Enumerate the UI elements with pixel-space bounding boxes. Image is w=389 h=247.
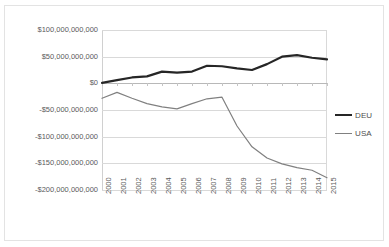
legend-label-deu: DEU <box>355 111 372 120</box>
chart-container: $100,000,000,000$50,000,000,000$0-$50,00… <box>4 5 384 241</box>
legend-line-icon-deu <box>335 114 352 116</box>
y-axis-tick-label: -$150,000,000,000 <box>6 159 98 167</box>
x-axis-tick-label: 2012 <box>285 177 293 194</box>
x-axis-tick-label: 2001 <box>120 177 128 194</box>
x-axis-tick-label: 2010 <box>255 177 263 194</box>
series-line-deu <box>102 55 327 83</box>
x-axis-tick-label: 2013 <box>300 177 308 194</box>
x-axis-tick-label: 2011 <box>270 178 278 194</box>
x-axis-tick-label: 2000 <box>105 177 113 194</box>
x-axis-tick-label: 2003 <box>150 177 158 194</box>
x-axis-tick-label: 2002 <box>135 177 143 194</box>
legend-item-deu[interactable]: DEU <box>335 106 383 124</box>
y-axis: $100,000,000,000$50,000,000,000$0-$50,00… <box>5 30 98 190</box>
x-axis: 2000200120022003200420052006200720082009… <box>102 192 327 238</box>
chart-legend: DEU USA <box>335 106 383 142</box>
x-axis-tick-label: 2005 <box>180 177 188 194</box>
series-line-usa <box>102 92 327 177</box>
x-axis-tick-label: 2008 <box>225 177 233 194</box>
x-axis-tick-label: 2006 <box>195 177 203 194</box>
x-axis-tick <box>327 83 328 86</box>
x-axis-tick-label: 2004 <box>165 177 173 194</box>
plot-area <box>102 30 327 190</box>
y-axis-tick-label: $0 <box>6 79 98 87</box>
y-axis-tick-label: -$50,000,000,000 <box>6 106 98 114</box>
y-axis-tick-label: $100,000,000,000 <box>6 26 98 34</box>
y-axis-tick-label: -$100,000,000,000 <box>6 133 98 141</box>
legend-item-usa[interactable]: USA <box>335 124 383 142</box>
series-layer <box>102 30 327 190</box>
legend-line-icon-usa <box>335 133 352 134</box>
y-axis-tick-label: $50,000,000,000 <box>6 53 98 61</box>
x-axis-tick-label: 2014 <box>315 177 323 194</box>
legend-label-usa: USA <box>355 129 372 138</box>
x-axis-tick-label: 2007 <box>210 177 218 194</box>
x-axis-tick-label: 2015 <box>330 177 338 194</box>
x-axis-tick-label: 2009 <box>240 177 248 194</box>
y-axis-tick-label: -$200,000,000,000 <box>6 186 98 194</box>
